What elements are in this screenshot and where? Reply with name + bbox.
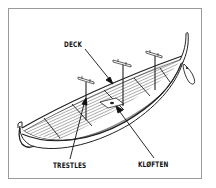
viking-ship-illustration bbox=[0, 0, 216, 188]
label-kloften: KLØFTEN bbox=[138, 160, 168, 169]
steering-oar bbox=[183, 64, 195, 84]
label-deck: DECK bbox=[64, 40, 82, 49]
prow bbox=[180, 33, 188, 64]
label-trestles: TRESTLES bbox=[53, 161, 86, 170]
